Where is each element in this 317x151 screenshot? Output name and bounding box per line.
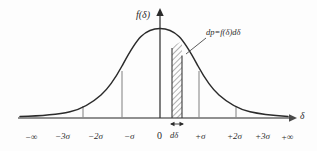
y-axis-arrow xyxy=(156,8,163,16)
tick-label-plus-3sigma: +3σ xyxy=(255,132,270,141)
tick-label-plus-infinity: +∞ xyxy=(281,133,294,142)
x-axis-label: δ xyxy=(300,112,304,122)
differential-strip xyxy=(172,41,182,118)
annotation-leader-line xyxy=(186,38,206,54)
tick-label-minus-2sigma: −2σ xyxy=(88,132,103,141)
figure-canvas xyxy=(0,0,317,151)
tick-label-plus-2sigma: +2σ xyxy=(227,132,242,141)
ddelta-width-arrow xyxy=(170,122,184,126)
gaussian-curve xyxy=(20,29,288,117)
origin-label: 0 xyxy=(157,131,162,141)
tick-label-plus-1sigma: +σ xyxy=(195,132,206,141)
tick-label-minus-infinity: −∞ xyxy=(25,133,38,142)
x-axis xyxy=(18,114,297,122)
tick-label-minus-1sigma: −σ xyxy=(124,132,135,141)
tick-label-minus-3sigma: −3σ xyxy=(55,132,70,141)
y-axis-label: f(δ) xyxy=(136,10,150,20)
gaussian-distribution-figure: f(δ) dp=f(δ)dδ 0 δ dδ −∞ −3σ −2σ −σ +σ +… xyxy=(0,0,317,151)
ddelta-label: dδ xyxy=(170,131,178,140)
y-axis xyxy=(156,8,163,118)
annotation-dp-label: dp=f(δ)dδ xyxy=(206,28,240,37)
x-axis-arrow xyxy=(289,114,297,122)
